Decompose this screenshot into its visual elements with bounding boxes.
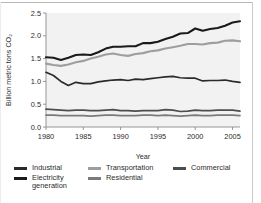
line-chart: 0.00.51.01.52.02.51980198519901995200020… (0, 3, 252, 163)
legend-item-transportation[interactable]: Transportation (88, 164, 173, 173)
x-tick-label: 1995 (150, 132, 166, 141)
figure-container: 0.00.51.01.52.02.51980198519901995200020… (0, 0, 261, 203)
chart-svg: 0.00.51.01.52.02.51980198519901995200020… (0, 3, 252, 163)
y-tick-label: 2.0 (31, 31, 41, 40)
legend-swatch-icon (173, 167, 186, 170)
legend-label: Residential (106, 174, 143, 183)
series-line-residential (46, 115, 240, 116)
x-tick-label: 1990 (112, 132, 128, 141)
y-tick-label: 0.5 (31, 100, 41, 109)
legend-item-commercial[interactable]: Commercial (173, 164, 251, 173)
legend-swatch-icon (88, 177, 101, 180)
x-tick-label: 1980 (38, 132, 54, 141)
legend-swatch-icon (14, 177, 27, 180)
x-tick-label: 1985 (75, 132, 91, 141)
frame-right-border (252, 2, 253, 203)
y-axis-title: Billion metric tons CO₂ (4, 34, 13, 106)
legend-row: IndustrialTransportationCommercial (14, 164, 252, 173)
x-tick-label: 2000 (187, 132, 203, 141)
legend-label: Industrial (32, 164, 62, 173)
chart-legend: IndustrialTransportationCommercialElectr… (14, 164, 252, 192)
legend-item-residential[interactable]: Residential (88, 174, 173, 183)
y-tick-label: 1.0 (31, 77, 41, 86)
y-tick-label: 1.5 (31, 54, 41, 63)
legend-item-electricity-generation[interactable]: Electricity generation (14, 174, 88, 191)
x-axis-title: Year (136, 152, 151, 161)
y-tick-label: 2.5 (31, 9, 41, 18)
legend-row: Electricity generationResidential (14, 174, 252, 191)
x-tick-label: 2005 (224, 132, 240, 141)
legend-label: Commercial (191, 164, 230, 173)
legend-label: Transportation (106, 164, 153, 173)
legend-swatch-icon (14, 167, 27, 170)
legend-label: Electricity generation (32, 174, 88, 191)
legend-item-industrial[interactable]: Industrial (14, 164, 88, 173)
y-tick-label: 0.0 (31, 123, 41, 132)
legend-swatch-icon (88, 167, 101, 170)
